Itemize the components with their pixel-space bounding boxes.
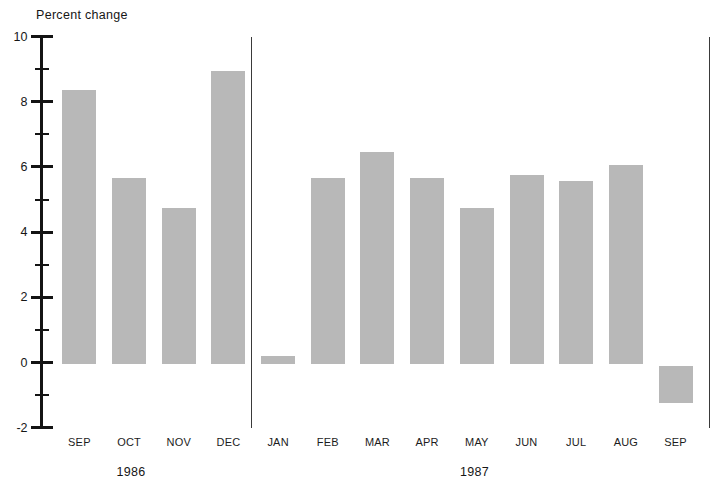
x-label-apr-1987: APR [405,436,449,448]
y-tick-label-10: 10 [0,30,28,44]
x-label-dec-1986: DEC [206,436,250,448]
bar-chart-figure: Percent change 1086420-2SEPOCTNOVDECJANF… [0,0,722,492]
y-major-tick-8 [31,100,53,103]
bar-jun-1987 [510,175,544,364]
bar-may-1987 [460,208,494,364]
y-major-tick-6 [31,165,53,168]
bar-apr-1987 [410,178,444,364]
bar-jul-1987 [559,181,593,364]
y-minor-tick-5 [35,199,49,201]
x-label-jun-1987: JUN [505,436,549,448]
bar-jan-1987 [261,356,295,364]
y-tick-label--2: -2 [0,421,28,435]
bar-feb-1987 [311,178,345,364]
y-major-tick-10 [31,35,53,38]
y-major-tick-2 [31,296,53,299]
y-major-tick-0 [31,361,53,364]
right-border-line [709,37,711,428]
y-major-tick-4 [31,231,53,234]
x-label-feb-1987: FEB [306,436,350,448]
x-label-oct-1986: OCT [107,436,151,448]
y-minor-tick-1 [35,329,49,331]
y-minor-tick-9 [35,68,49,70]
x-label-aug-1987: AUG [604,436,648,448]
year-label-1987: 1987 [445,465,505,479]
chart-stage: 1086420-2SEPOCTNOVDECJANFEBMARAPRMAYJUNJ… [0,0,722,492]
year-divider-line [251,37,253,428]
bar-sep-1987 [659,366,693,403]
y-tick-label-2: 2 [0,290,28,304]
y-major-tick--2 [31,426,53,429]
bar-dec-1986 [211,71,245,364]
y-minor-tick-3 [35,264,49,266]
y-tick-label-6: 6 [0,160,28,174]
y-tick-label-8: 8 [0,95,28,109]
y-minor-tick--1 [35,394,49,396]
bar-sep-1986 [62,90,96,364]
x-label-mar-1987: MAR [355,436,399,448]
y-minor-tick-7 [35,133,49,135]
bar-nov-1986 [162,208,196,364]
year-label-1986: 1986 [101,465,161,479]
bar-mar-1987 [360,152,394,364]
bar-aug-1987 [609,165,643,364]
x-label-nov-1986: NOV [157,436,201,448]
x-label-sep-1987: SEP [654,436,698,448]
bar-oct-1986 [112,178,146,364]
x-label-jan-1987: JAN [256,436,300,448]
x-label-may-1987: MAY [455,436,499,448]
x-label-jul-1987: JUL [554,436,598,448]
y-tick-label-0: 0 [0,356,28,370]
y-tick-label-4: 4 [0,225,28,239]
x-label-sep-1986: SEP [57,436,101,448]
